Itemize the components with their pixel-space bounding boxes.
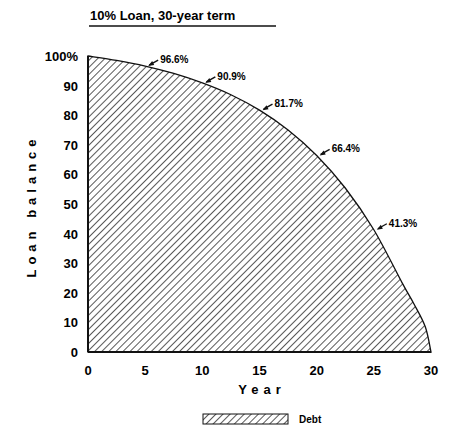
y-tick-label: 60: [64, 167, 78, 182]
x-tick-label: 30: [424, 363, 438, 378]
y-axis-ticks: 0102030405060708090100%: [45, 49, 79, 360]
y-tick-label: 70: [64, 138, 78, 153]
x-axis-label: Year: [238, 382, 285, 397]
y-tick-label: 0: [71, 345, 78, 360]
y-tick-label: 30: [64, 256, 78, 271]
x-tick-label: 5: [142, 363, 149, 378]
annotation: 81.7%: [263, 98, 303, 110]
annotation: 41.3%: [377, 218, 417, 230]
x-tick-label: 15: [252, 363, 266, 378]
chart-title-text: 10% Loan, 30-year term: [90, 8, 235, 23]
debt-area-path: [88, 56, 431, 352]
annotation-label: 66.4%: [332, 143, 360, 154]
x-tick-label: 10: [195, 363, 209, 378]
x-tick-label: 20: [309, 363, 323, 378]
loan-balance-chart: 10% Loan, 30-year term 01020304050607080…: [0, 0, 464, 444]
y-tick-label: 50: [64, 197, 78, 212]
annotation: 90.9%: [205, 71, 245, 83]
annotation-label: 96.6%: [160, 54, 188, 65]
annotation-label: 41.3%: [389, 218, 417, 229]
y-tick-label: 80: [64, 108, 78, 123]
legend: Debt: [203, 414, 322, 425]
x-tick-label: 0: [84, 363, 91, 378]
annotation-label: 90.9%: [217, 71, 245, 82]
y-tick-label: 90: [64, 79, 78, 94]
annotation-label: 81.7%: [275, 98, 303, 109]
y-tick-label: 20: [64, 286, 78, 301]
x-tick-label: 25: [367, 363, 381, 378]
y-tick-label: 40: [64, 227, 78, 242]
y-axis-label: Loan balance: [24, 134, 39, 277]
legend-swatch: [203, 414, 288, 424]
legend-label: Debt: [299, 414, 322, 425]
debt-area: [88, 56, 431, 352]
chart-title: 10% Loan, 30-year term: [89, 8, 276, 26]
annotation: 96.6%: [148, 54, 188, 66]
annotation: 66.4%: [320, 143, 360, 155]
y-tick-label: 100%: [45, 49, 79, 64]
x-axis-ticks: 051015202530: [84, 363, 438, 378]
y-tick-label: 10: [64, 315, 78, 330]
